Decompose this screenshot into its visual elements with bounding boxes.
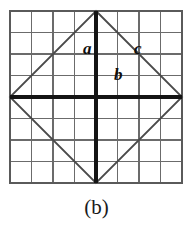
label-b: b [114, 66, 123, 83]
label-a: a [83, 40, 92, 57]
figure-caption: (b) [0, 197, 193, 218]
label-c: c [134, 40, 142, 57]
figure-container: a b c (b) [0, 0, 193, 231]
